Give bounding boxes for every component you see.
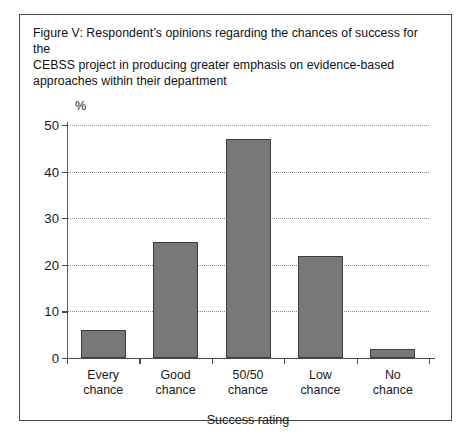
y-tick-20 <box>62 265 68 266</box>
y-axis-label-0: 0 <box>52 351 59 366</box>
y-tick-30 <box>62 218 68 219</box>
bar-50-50-chance <box>226 139 271 358</box>
bar-no-chance <box>370 349 415 358</box>
x-tick-1 <box>139 359 140 364</box>
y-axis-label-10: 10 <box>44 304 59 319</box>
x-axis-label-good-chance: Good chance <box>136 368 216 397</box>
y-axis-line <box>67 122 68 358</box>
x-tick-4 <box>357 359 358 364</box>
x-tick-0 <box>67 359 68 364</box>
x-axis-label-50-50-chance: 50/50 chance <box>208 368 288 397</box>
x-axis-label-every-chance: Every chance <box>63 368 143 397</box>
bar-good-chance <box>153 242 198 359</box>
y-axis-label-20: 20 <box>44 257 59 272</box>
figure-frame: Figure V: Respondent’s opinions regardin… <box>19 14 452 421</box>
y-tick-40 <box>62 172 68 173</box>
plot-area: 50 40 30 20 10 0 Every chance Good chanc… <box>67 125 429 358</box>
bar-every-chance <box>81 330 126 358</box>
bar-low-chance <box>298 256 343 359</box>
x-tick-3 <box>284 359 285 364</box>
x-tick-2 <box>212 359 213 364</box>
x-axis-label-no-chance: No chance <box>353 368 433 397</box>
x-axis-title: Success rating <box>67 413 429 427</box>
gridline-50 <box>67 125 429 127</box>
y-tick-50 <box>62 125 68 126</box>
x-tick-5 <box>429 359 430 364</box>
x-axis-line <box>67 358 435 359</box>
y-axis-label-30: 30 <box>44 211 59 226</box>
y-axis-unit-label: % <box>75 99 86 113</box>
y-axis-label-50: 50 <box>44 118 59 133</box>
x-axis-label-low-chance: Low chance <box>280 368 360 397</box>
y-tick-10 <box>62 311 68 312</box>
figure-caption: Figure V: Respondent’s opinions regardin… <box>33 25 437 89</box>
y-axis-label-40: 40 <box>44 164 59 179</box>
